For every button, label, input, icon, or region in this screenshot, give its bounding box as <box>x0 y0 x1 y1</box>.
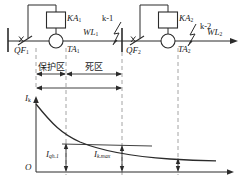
zone-label-protection: 保护区 <box>36 63 66 72</box>
conductor-wl2-arrowhead <box>230 38 238 44</box>
annotation-i-k-min-arrow-bottom <box>176 166 180 172</box>
fault-k1-arrowhead <box>113 40 118 46</box>
ct-ta1-symbol <box>49 34 63 48</box>
zone-label-dead: 死区 <box>79 63 109 72</box>
fault-k2-label: k-2 <box>200 22 211 31</box>
dead-zone-arrow-left <box>66 72 72 77</box>
chart-y-axis-label: Ik <box>25 94 31 104</box>
relay-ka1-symbol <box>47 12 66 28</box>
fault-k1-lightning <box>113 22 121 45</box>
relay-ka1-label: KA1 <box>67 14 81 24</box>
chart-origin-label: O <box>25 163 32 172</box>
total-zone-arrow-left <box>36 86 42 91</box>
annotation-i-k-max-arrow-top <box>120 145 124 151</box>
annotation-i-k-max-arrow-bottom <box>120 166 124 172</box>
ct-ta1-label: TA1 <box>67 45 80 55</box>
breaker-qf2-label: QF2 <box>126 46 141 56</box>
chart-curve-short-circuit-current <box>36 104 216 161</box>
annotation-i-qh-1-arrow-bottom <box>64 166 68 172</box>
protection-zone-arrow-left <box>36 72 42 77</box>
relay-ka2-symbol <box>159 12 178 28</box>
diagram-root: KA1 TA1 WL1 QF1 k-1 KA2 TA2 WL2 QF2 k-2 … <box>0 0 246 184</box>
fault-k1-label: k-1 <box>102 14 113 23</box>
breaker-qf1-label: QF1 <box>14 46 29 56</box>
protection-zone-arrow-right <box>60 72 66 77</box>
ct-ta2-symbol <box>161 34 175 48</box>
chart-setting-level-line <box>62 144 152 146</box>
chart-x-axis-arrowhead <box>227 169 234 175</box>
ct-ta2-label: TA2 <box>178 45 191 55</box>
total-zone-arrow-right <box>116 86 122 91</box>
annotation-i-k-max-label: Ik.max <box>94 150 110 160</box>
dead-zone-arrow-right <box>116 72 122 77</box>
relay-ka2-label: KA2 <box>179 14 193 24</box>
annotation-i-qh-1-label: Iqh.1 <box>46 150 59 160</box>
chart-y-axis-arrowhead <box>33 96 39 103</box>
line-wl1-label: WL1 <box>83 28 98 38</box>
fault-k2-lightning <box>188 24 196 46</box>
